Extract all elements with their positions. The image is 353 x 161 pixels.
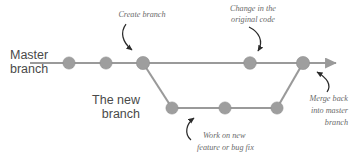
branch-out-edge: [143, 63, 172, 108]
annotation-create-branch-text: Create branch: [118, 10, 165, 19]
annotation-merge-back-line1: Merge back: [308, 94, 348, 103]
annotation-merge-back-line2: into master: [311, 106, 349, 115]
annotation-merge-back-line3: branch: [325, 118, 348, 127]
annotation-arrow-change-original-code: [249, 27, 261, 51]
commit-node[interactable]: [271, 102, 283, 114]
master-branch-label: Master branch: [10, 48, 48, 76]
annotation-change-original-code-line1: Change in the: [230, 4, 276, 13]
commit-node[interactable]: [63, 57, 75, 69]
commit-node-branch-point[interactable]: [136, 56, 149, 69]
commit-node[interactable]: [219, 102, 231, 114]
annotation-merge-back: Merge back into master branch: [308, 72, 348, 127]
annotation-change-original-code: Change in the original code: [230, 4, 276, 51]
feature-branch-label-line2: branch: [102, 107, 140, 121]
annotation-work-on-new-feature-line1: Work on new: [203, 131, 246, 140]
annotation-work-on-new-feature-line2: feature or bug fix: [197, 143, 254, 152]
feature-branch-label-line1: The new: [92, 93, 141, 107]
feature-branch-label: The new branch: [92, 93, 141, 121]
commit-node-original-code-change[interactable]: [244, 57, 257, 70]
merge-back-edge: [277, 63, 303, 108]
annotation-arrow-create-branch: [123, 24, 132, 50]
commit-node[interactable]: [100, 57, 112, 69]
git-branching-diagram: Master branch The new branch Create bran…: [0, 0, 353, 161]
diagram-canvas: Master branch The new branch Create bran…: [0, 0, 353, 161]
annotation-create-branch: Create branch: [118, 10, 165, 50]
master-branch-label-line1: Master: [10, 48, 48, 62]
feature-branch-line-group: [143, 63, 303, 108]
master-branch-label-line2: branch: [10, 62, 48, 76]
commit-node[interactable]: [166, 102, 178, 114]
commit-node-merge-point[interactable]: [296, 56, 309, 69]
annotation-arrow-work-on-new-feature: [187, 118, 194, 140]
annotation-change-original-code-line2: original code: [231, 15, 275, 24]
annotation-arrow-merge-back: [317, 72, 329, 92]
annotation-work-on-new-feature: Work on new feature or bug fix: [187, 118, 254, 152]
